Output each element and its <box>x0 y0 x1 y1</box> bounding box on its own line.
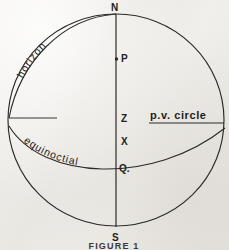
label-equinoctial: equinoctial <box>22 134 80 168</box>
label-point-p: P <box>121 53 128 64</box>
label-horizon: horizon <box>14 39 48 80</box>
figure-caption: FIGURE 1 <box>88 241 139 250</box>
label-point-z: Z <box>121 113 127 124</box>
label-point-q: Q. <box>119 163 130 174</box>
pv-circle-label-group: p.v. circle <box>149 109 224 123</box>
pole-point-dot <box>115 57 118 60</box>
figure-container: N P Z X Q. S horizon equinoctial p.v. ci… <box>0 0 229 250</box>
label-point-n: N <box>111 2 118 13</box>
label-point-x: X <box>121 136 128 147</box>
label-pv-circle: p.v. circle <box>150 109 207 121</box>
celestial-sphere-diagram: N P Z X Q. S horizon equinoctial p.v. ci… <box>0 0 229 250</box>
